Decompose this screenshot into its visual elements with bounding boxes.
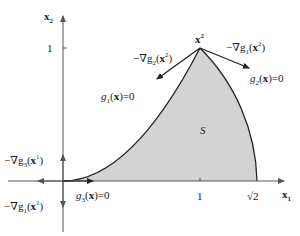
kkt-diagram: x2 x1 1 1 √2 S x2 −∇g2(x2) −∇g1(x2) g1(x… [0,0,300,236]
x2-axis-label: x2 [44,10,54,25]
g1-eq-zero-label: g1(x)=0 [101,90,135,105]
point-x2-label: x2 [195,32,205,45]
y-tick-label-1: 1 [47,42,53,54]
x1-axis-label: x1 [282,188,292,203]
neg-grad-g3-x1-label: −∇g3(x1) [4,153,44,169]
g3-eq-zero-label: g3(x)=0 [76,189,110,204]
region-label-s: S [200,124,206,136]
neg-grad-g1-x2-label: −∇g1(x2) [226,40,266,56]
neg-grad-g2-x2-label: −∇g2(x2) [133,51,173,67]
x-tick-label-sqrt2: √2 [247,190,259,202]
neg-grad-g1-x1-label: −∇g1(x1) [4,199,44,215]
g2-eq-zero-label: g2(x)=0 [250,72,284,87]
x-tick-label-1: 1 [197,190,203,202]
